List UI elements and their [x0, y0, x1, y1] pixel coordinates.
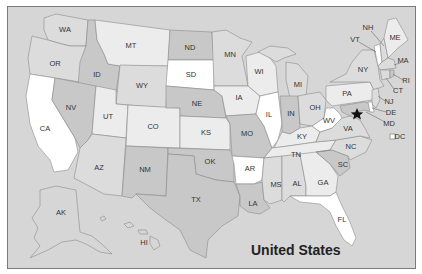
state-label-wv: WV — [323, 116, 335, 125]
state-label-mi: MI — [294, 80, 302, 89]
state-label-or: OR — [49, 59, 61, 68]
state-label-ca: CA — [40, 124, 50, 133]
state-label-sc: SC — [338, 160, 349, 169]
state-label-de: DE — [386, 108, 396, 117]
state-label-ms: MS — [270, 180, 281, 189]
state-label-ny: NY — [358, 65, 368, 74]
state-label-ma: MA — [397, 56, 408, 65]
state-label-ri: RI — [402, 76, 410, 85]
state-label-ia: IA — [235, 93, 242, 102]
state-label-wy: WY — [136, 81, 148, 90]
state-label-ct: CT — [393, 86, 403, 95]
state-label-ar: AR — [245, 164, 256, 173]
state-label-nc: NC — [346, 142, 357, 151]
state-label-ak: AK — [56, 208, 66, 217]
state-label-sd: SD — [186, 70, 197, 79]
state-ct — [380, 70, 390, 80]
state-label-tn: TN — [291, 150, 301, 159]
state-label-al: AL — [292, 179, 301, 188]
state-label-nj: NJ — [384, 97, 393, 106]
state-label-va: VA — [343, 124, 352, 133]
state-label-in: IN — [287, 109, 295, 118]
state-label-nd: ND — [185, 43, 196, 52]
state-label-ne: NE — [192, 99, 202, 108]
state-label-mo: MO — [241, 129, 253, 138]
state-label-wa: WA — [59, 25, 71, 34]
state-label-md: MD — [383, 119, 395, 128]
state-label-il: IL — [266, 110, 272, 119]
state-label-fl: FL — [338, 215, 347, 224]
us-map: WAORCAIDNVMTWYUTCOAZNMNDSDNEKSOKTXMNIAMO… — [0, 0, 422, 274]
state-label-pa: PA — [342, 89, 351, 98]
state-label-ky: KY — [297, 132, 307, 141]
state-label-mt: MT — [126, 41, 137, 50]
state-label-ut: UT — [103, 112, 113, 121]
state-label-hi: HI — [140, 238, 148, 247]
state-label-ok: OK — [205, 157, 216, 166]
state-label-co: CO — [147, 122, 158, 131]
state-label-wi: WI — [254, 67, 263, 76]
state-label-id: ID — [93, 70, 101, 79]
map-title: United States — [251, 242, 341, 258]
state-label-mn: MN — [224, 50, 236, 59]
state-label-vt: VT — [350, 35, 360, 44]
state-label-az: AZ — [94, 163, 104, 172]
state-label-ks: KS — [201, 128, 211, 137]
state-label-ga: GA — [318, 178, 329, 187]
state-label-nm: NM — [139, 165, 151, 174]
state-label-oh: OH — [309, 103, 320, 112]
state-label-nv: NV — [66, 103, 76, 112]
state-label-me: ME — [389, 33, 400, 42]
state-label-dc: DC — [395, 132, 406, 141]
state-label-la: LA — [248, 199, 257, 208]
state-label-tx: TX — [191, 195, 201, 204]
state-label-nh: NH — [363, 23, 374, 32]
